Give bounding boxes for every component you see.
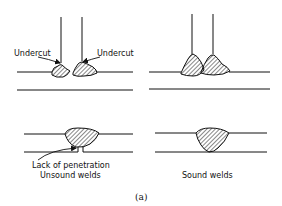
fillet-weld-left (52, 65, 70, 78)
label-unsound-welds: Unsound welds (40, 171, 101, 180)
fillet-weld-right (73, 62, 97, 76)
label-lack-of-penetration: Lack of penetration (32, 161, 110, 170)
leader-lack-of-penetration (38, 148, 76, 160)
butt-weld-sound (196, 128, 229, 152)
label-undercut-right: Undercut (97, 49, 134, 58)
fillet-weld-right (201, 55, 230, 75)
label-undercut-left: Undercut (14, 49, 51, 58)
figure-caption: (a) (135, 192, 147, 202)
panel-sound-fillet (149, 14, 270, 89)
panel-lack-of-penetration (24, 128, 133, 160)
label-sound-welds: Sound welds (182, 171, 233, 180)
butt-weld-incomplete (65, 128, 99, 147)
panel-sound-butt (155, 128, 267, 152)
